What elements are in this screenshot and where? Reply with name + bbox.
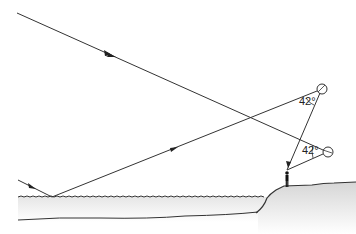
arrow-icon bbox=[104, 50, 112, 56]
observer bbox=[285, 171, 289, 187]
arrow-icon bbox=[286, 161, 291, 168]
sunray-top bbox=[17, 13, 323, 150]
rainbow-diagram bbox=[0, 0, 356, 234]
arrow-icon bbox=[28, 183, 36, 189]
reflected-ray bbox=[52, 91, 317, 197]
upper-raindrop bbox=[317, 84, 327, 94]
shore-ground bbox=[258, 182, 356, 234]
arrow-icon bbox=[170, 147, 178, 152]
angle-label-upper: 42° bbox=[299, 95, 316, 107]
angle-label-lower: 42° bbox=[302, 144, 319, 156]
